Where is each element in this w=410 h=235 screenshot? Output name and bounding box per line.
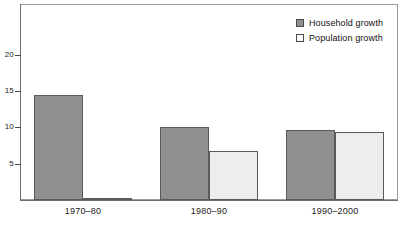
bar-1970-80-population[interactable] [83,198,132,200]
legend-label-population: Population growth [309,33,383,43]
bar-1990-2000-household[interactable] [286,130,335,200]
bar-1980-90-household[interactable] [160,127,209,200]
x-axis-label-2: 1990–2000 [295,206,375,216]
bar-1970-80-household[interactable] [34,95,83,200]
legend-item-household[interactable]: Household growth [296,16,383,29]
bar-1980-90-population[interactable] [209,151,258,200]
bar-chart: 5101520 1970–801980–901990–2000 Househol… [0,0,410,235]
x-axis-label-1: 1980–90 [169,206,249,216]
x-axis-label-0: 1970–80 [43,206,123,216]
legend-label-household: Household growth [309,18,383,28]
bar-1990-2000-population[interactable] [335,132,384,200]
chart-legend: Household growth Population growth [296,16,383,46]
legend-swatch-population-icon [296,34,304,42]
legend-item-population[interactable]: Population growth [296,31,383,44]
legend-swatch-household-icon [296,19,304,27]
